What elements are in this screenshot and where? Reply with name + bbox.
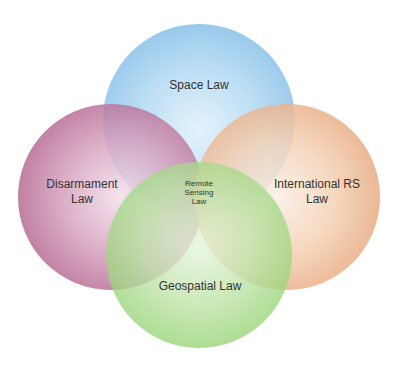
space-law-label: Space Law [159, 78, 239, 93]
disarmament-law-line-1: Disarmament [34, 177, 130, 192]
remote-sensing-line-2: Sensing [174, 188, 224, 197]
venn-diagram: Space Law Disarmament Law International … [0, 0, 397, 366]
disarmament-law-line-2: Law [34, 192, 130, 207]
international-rs-law-line-1: International RS [262, 177, 372, 192]
space-law-text: Space Law [169, 78, 228, 92]
international-rs-law-line-2: Law [262, 192, 372, 207]
geospatial-law-text: Geospatial Law [159, 279, 242, 293]
remote-sensing-line-1: Remote [174, 179, 224, 188]
international-rs-law-label: International RS Law [262, 177, 372, 207]
remote-sensing-law-label: Remote Sensing Law [174, 179, 224, 206]
remote-sensing-line-3: Law [174, 197, 224, 206]
geospatial-law-label: Geospatial Law [140, 279, 260, 294]
disarmament-law-label: Disarmament Law [34, 177, 130, 207]
